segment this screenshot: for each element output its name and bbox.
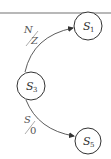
- state-node-s3: S 3: [17, 72, 45, 100]
- state-diagram: N Z S 0 S 1 S 3 S 5: [0, 0, 111, 159]
- edge-label-input: S: [24, 114, 31, 125]
- state-subscript: 3: [33, 86, 37, 94]
- edge-label-output: 0: [30, 125, 36, 136]
- transition-s3-s5: S 0: [24, 100, 74, 136]
- state-node-s1: S 1: [74, 12, 102, 40]
- state-subscript: 1: [90, 26, 94, 34]
- state-node-s5: S 5: [75, 128, 101, 154]
- transition-s3-s1: N Z: [23, 24, 73, 72]
- edge-label-input: N: [23, 24, 34, 35]
- edge-label-output: Z: [30, 35, 39, 46]
- state-subscript: 5: [90, 141, 94, 149]
